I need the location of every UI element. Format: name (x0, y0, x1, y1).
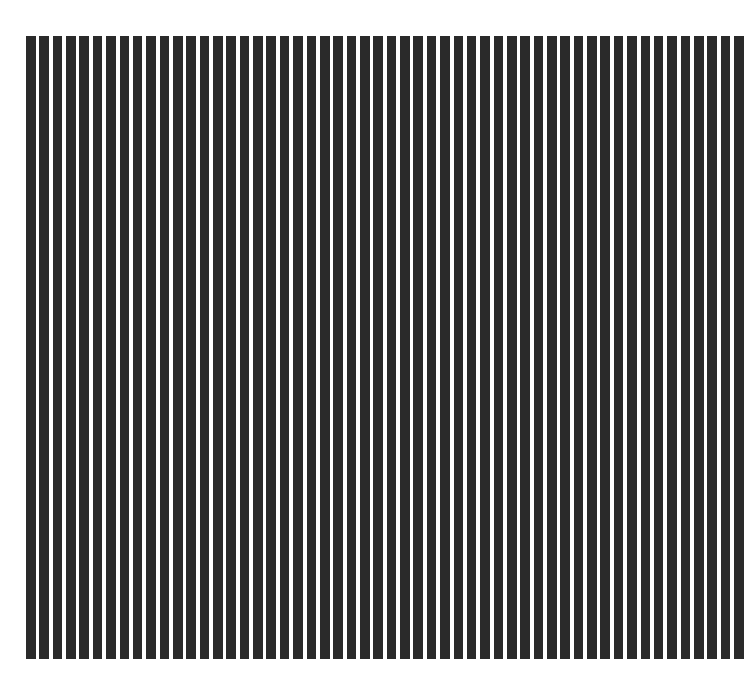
stripe (373, 36, 383, 659)
stripe (480, 36, 490, 659)
stripe (320, 36, 330, 659)
stripe (641, 36, 651, 659)
stripe (547, 36, 557, 659)
stripe (120, 36, 130, 659)
stripe (200, 36, 210, 659)
stripe (494, 36, 504, 659)
stripe (79, 36, 89, 659)
stripe (106, 36, 116, 659)
stripe (467, 36, 477, 659)
stripe (226, 36, 236, 659)
stripe (574, 36, 584, 659)
stripe (93, 36, 103, 659)
stripe (240, 36, 250, 659)
stripe (400, 36, 410, 659)
stripe (347, 36, 357, 659)
stripe (507, 36, 517, 659)
stripe (734, 36, 744, 659)
stripe (293, 36, 303, 659)
stripe (654, 36, 664, 659)
stripe (160, 36, 170, 659)
stripe (53, 36, 63, 659)
stripe (213, 36, 223, 659)
stripe (440, 36, 450, 659)
stripe (413, 36, 423, 659)
stripe-pattern (26, 36, 744, 659)
stripe (307, 36, 317, 659)
stripe (66, 36, 76, 659)
stripe (253, 36, 263, 659)
stripe (681, 36, 691, 659)
stripe (721, 36, 731, 659)
stripe (146, 36, 156, 659)
stripe (534, 36, 544, 659)
stripe (427, 36, 437, 659)
stripe (266, 36, 276, 659)
stripe (186, 36, 196, 659)
stripe (560, 36, 570, 659)
stripe (694, 36, 704, 659)
stripe (133, 36, 143, 659)
stripe (333, 36, 343, 659)
stripe (707, 36, 717, 659)
stripe (454, 36, 464, 659)
stripe (614, 36, 624, 659)
stripe (627, 36, 637, 659)
stripe (173, 36, 183, 659)
stripe (600, 36, 610, 659)
stripe (587, 36, 597, 659)
stripe (667, 36, 677, 659)
stripe (280, 36, 290, 659)
stripe (360, 36, 370, 659)
stripe (520, 36, 530, 659)
stripe (26, 36, 36, 659)
stripe (387, 36, 397, 659)
stripe (39, 36, 49, 659)
